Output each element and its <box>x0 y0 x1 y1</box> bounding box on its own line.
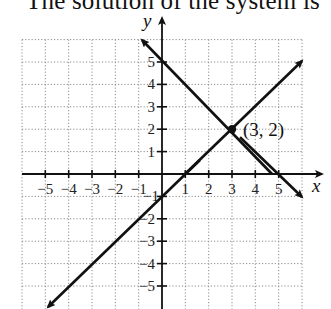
svg-text:3: 3 <box>148 99 156 115</box>
svg-text:4: 4 <box>252 181 260 197</box>
intersection-point <box>228 125 236 133</box>
intersection-label: (3, 2) <box>243 119 284 141</box>
y-axis-label: y <box>141 10 152 31</box>
svg-text:−3: −3 <box>139 233 155 249</box>
coordinate-graph: −5 −4 −3 −2 −1 1 2 3 4 5 5 4 3 2 1 −1 −2… <box>0 0 331 309</box>
svg-text:1: 1 <box>148 144 156 160</box>
svg-text:5: 5 <box>275 181 283 197</box>
line-y-equals-x-minus-1 <box>185 61 302 174</box>
line-y-equals-neg-x-plus-5-lower <box>240 137 302 197</box>
svg-text:−5: −5 <box>37 181 53 197</box>
svg-text:−2: −2 <box>139 211 155 227</box>
svg-text:−2: −2 <box>107 181 123 197</box>
svg-text:3: 3 <box>228 181 236 197</box>
svg-text:−3: −3 <box>84 181 100 197</box>
svg-text:−4: −4 <box>61 181 77 197</box>
svg-text:−4: −4 <box>139 256 155 272</box>
x-axis-label: x <box>311 175 321 196</box>
x-tick-labels: −5 −4 −3 −2 −1 1 2 3 4 5 <box>37 181 282 197</box>
svg-text:−5: −5 <box>139 278 155 294</box>
svg-text:5: 5 <box>148 54 156 70</box>
svg-text:2: 2 <box>205 181 213 197</box>
svg-text:4: 4 <box>148 76 156 92</box>
svg-text:1: 1 <box>182 181 190 197</box>
svg-text:2: 2 <box>148 121 156 137</box>
